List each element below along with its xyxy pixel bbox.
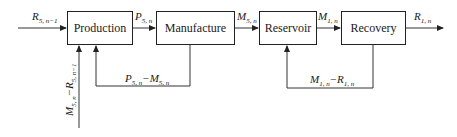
manufacture-feedback-label: P5, n−M5, n xyxy=(125,72,169,87)
recovery-label: Recovery xyxy=(351,21,397,36)
prod-manu-signal-label: P5, n xyxy=(135,10,152,25)
vertical-input-label: M5, n−R5, n−1 xyxy=(63,63,78,116)
manu-res-signal-label: M5, n xyxy=(237,10,257,25)
recovery-block: Recovery xyxy=(341,11,406,45)
input-signal-label: R5, n−1 xyxy=(32,10,57,25)
res-rec-signal-label: M1, n xyxy=(318,10,338,25)
manufacture-block: Manufacture xyxy=(156,11,235,45)
production-label: Production xyxy=(74,21,127,36)
reservoir-block: Reservoir xyxy=(259,11,317,45)
reservoir-label: Reservoir xyxy=(265,21,312,36)
output-signal-label: R1, n xyxy=(414,10,431,25)
manufacture-label: Manufacture xyxy=(165,21,226,36)
production-block: Production xyxy=(67,11,133,45)
recovery-feedback-label: M1, n−R1, n xyxy=(310,73,354,88)
